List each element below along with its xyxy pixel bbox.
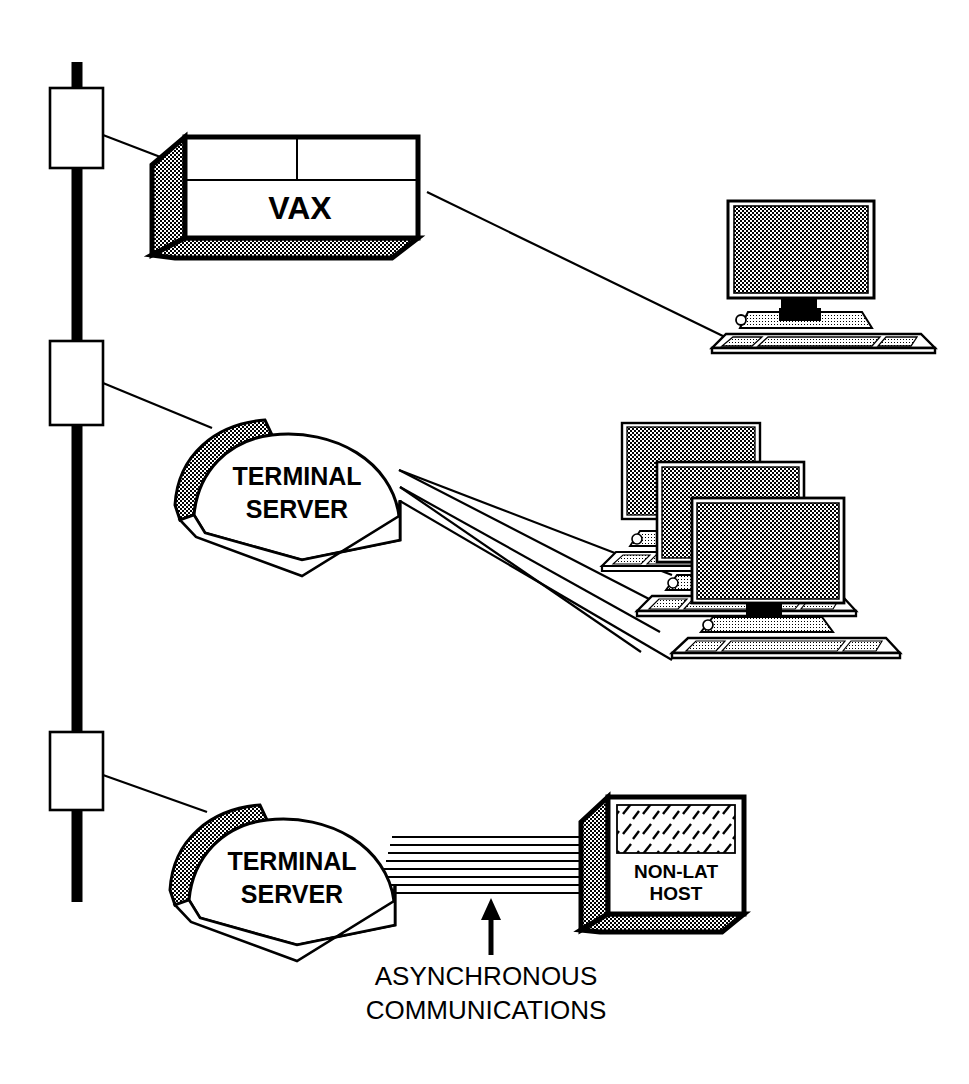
async-label-line-1: ASYNCHRONOUS [375,961,597,991]
terminal-front-screen [697,503,839,599]
tap-box-1[interactable] [50,88,103,168]
terminal-server-lower-label-1: TERMINAL [227,847,356,875]
vax-host[interactable]: VAX [152,137,418,258]
terminal-server-upper-label-2: SERVER [246,495,348,523]
terminal-screen [734,206,868,293]
non-lat-host[interactable]: NON-LAT HOST [581,797,744,932]
tap-box-3[interactable] [50,732,103,810]
async-label-line-2: COMMUNICATIONS [366,995,607,1025]
vax-label: VAX [268,190,332,226]
non-lat-host-label-1: NON-LAT [634,861,718,882]
non-lat-host-label-2: HOST [650,883,703,904]
non-lat-host-panel [617,805,735,853]
terminal-server-upper-label-1: TERMINAL [232,462,361,490]
tap-box-2[interactable] [50,341,103,425]
network-diagram: VAX TERMINAL SERVER [0,0,969,1084]
diagram-canvas: VAX TERMINAL SERVER [0,0,969,1084]
terminal-server-lower-label-2: SERVER [241,880,343,908]
